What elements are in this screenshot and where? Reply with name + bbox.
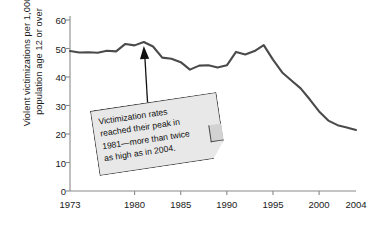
x-axis-ticks <box>135 191 320 195</box>
y-axis-ticks <box>66 20 70 191</box>
annotation-arrow <box>140 46 149 110</box>
